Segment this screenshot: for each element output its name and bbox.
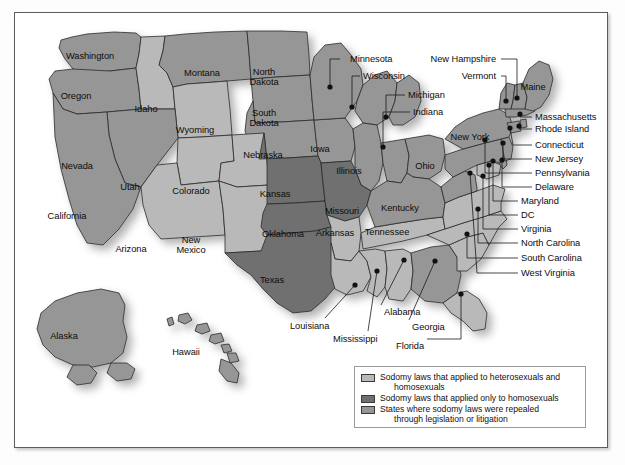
leader-dot-west-virginia: [467, 170, 472, 175]
state-label-texas: Texas: [260, 275, 284, 285]
state-alaska: [67, 365, 97, 385]
legend-text-line-1: States where sodomy laws were repealed: [380, 404, 539, 414]
leader-dot-wisconsin: [349, 104, 354, 109]
state-label-wyoming: Wyoming: [176, 125, 214, 135]
state-callout-label-connecticut: Connecticut: [535, 140, 584, 150]
leader-dot-alabama: [401, 257, 406, 262]
state-label-montana: Montana: [184, 68, 220, 78]
state-callout-label-new-jersey: New Jersey: [535, 154, 583, 164]
legend-text-line-2: through legislation or litigation: [380, 414, 539, 424]
state-callout-label-massachusetts: Massachusetts: [535, 112, 596, 122]
state-label-idaho: Idaho: [134, 104, 157, 114]
state-callout-label-indiana: Indiana: [413, 107, 443, 117]
legend-swatch-both: [361, 374, 375, 382]
state-label-south-dakota: SouthDakota: [249, 109, 278, 128]
state-montana: [159, 31, 251, 87]
state-label-new-york: New York: [451, 132, 490, 142]
legend-swatch-repealed: [361, 406, 375, 414]
legend-text: States where sodomy laws were repealedth…: [380, 404, 539, 424]
legend-text-line-1: Sodomy laws that applied to heterosexual…: [380, 372, 560, 382]
label-line-2: Dakota: [249, 119, 278, 129]
legend-text-line-2: homosexuals: [380, 382, 560, 392]
state-label-colorado: Colorado: [172, 186, 209, 196]
leader-dot-north-carolina: [475, 206, 480, 211]
state-alaska: [37, 289, 127, 367]
leader-dot-dc: [486, 162, 491, 167]
state-label-nevada: Nevada: [61, 161, 93, 171]
state-hawaii: [221, 344, 232, 353]
leader-dot-rhode-island: [516, 123, 521, 128]
leader-dot-delaware: [499, 157, 504, 162]
state-label-kansas: Kansas: [260, 189, 291, 199]
state-callout-label-louisiana: Louisiana: [290, 321, 329, 331]
state-label-california: California: [48, 211, 87, 221]
legend-item-homosexual-only: Sodomy laws that applied only to homosex…: [361, 393, 579, 403]
label-line-2: Mexico: [176, 246, 205, 256]
state-hawaii: [195, 323, 210, 334]
leader-dot-massachusetts: [517, 111, 522, 116]
leader-dot-new-hampshire: [514, 95, 519, 100]
leader-dot-new-jersey: [500, 140, 505, 145]
leader-dot-virginia: [480, 173, 485, 178]
leader-dot-florida: [458, 291, 463, 296]
state-georgia: [411, 245, 461, 303]
state-label-missouri: Missouri: [325, 206, 359, 216]
state-callout-label-pennsylvania: Pennsylvania: [535, 168, 590, 178]
state-label-alaska: Alaska: [50, 331, 78, 341]
state-callout-label-virginia: Virginia: [521, 224, 551, 234]
leader-dot-michigan: [383, 114, 388, 119]
map-legend: Sodomy laws that applied to heterosexual…: [354, 366, 586, 428]
state-callout-label-west-virginia: West Virginia: [521, 268, 575, 278]
state-label-arkansas: Arkansas: [316, 228, 354, 238]
state-label-nebraska: Nebraska: [243, 150, 282, 160]
state-callout-label-delaware: Delaware: [535, 182, 574, 192]
legend-text: Sodomy laws that applied to heterosexual…: [380, 372, 560, 392]
state-hawaii: [209, 333, 224, 344]
state-label-maine: Maine: [520, 82, 545, 92]
state-label-illinois: Illinois: [336, 166, 361, 176]
state-callout-label-rhode-island: Rhode Island: [535, 124, 589, 134]
state-callout-label-alabama: Alabama: [384, 307, 420, 317]
state-label-kentucky: Kentucky: [381, 203, 419, 213]
state-callout-label-minnesota: Minnesota: [350, 54, 392, 64]
leader-dot-maryland: [490, 158, 495, 163]
state-label-hawaii: Hawaii: [172, 347, 200, 357]
state-callout-label-south-carolina: South Carolina: [521, 253, 582, 263]
state-alaska: [107, 363, 135, 381]
state-callout-label-north-carolina: North Carolina: [521, 238, 580, 248]
state-callout-label-maryland: Maryland: [521, 196, 559, 206]
label-line-2: Dakota: [249, 78, 278, 88]
state-callout-label-new-hampshire: New Hampshire: [431, 54, 496, 64]
state-label-arizona: Arizona: [115, 244, 146, 254]
legend-item-repealed: States where sodomy laws were repealedth…: [361, 404, 579, 424]
state-hawaii: [167, 317, 174, 326]
state-callout-label-dc: DC: [521, 210, 534, 220]
map-stage: WashingtonOregonIdahoMontanaWyomingNorth…: [15, 13, 607, 447]
state-label-ohio: Ohio: [415, 161, 434, 171]
state-iowa: [314, 118, 355, 163]
state-label-tennessee: Tennessee: [365, 227, 410, 237]
state-callout-label-michigan: Michigan: [408, 90, 445, 100]
state-ohio: [405, 135, 445, 179]
leader-dot-georgia: [432, 258, 437, 263]
state-hawaii: [178, 313, 192, 324]
state-label-utah: Utah: [120, 182, 139, 192]
state-label-oregon: Oregon: [61, 91, 92, 101]
state-label-north-dakota: NorthDakota: [249, 68, 278, 87]
figure-root: WashingtonOregonIdahoMontanaWyomingNorth…: [0, 0, 625, 465]
map-frame: WashingtonOregonIdahoMontanaWyomingNorth…: [14, 12, 608, 448]
leader-dot-south-carolina: [464, 231, 469, 236]
state-callout-label-georgia: Georgia: [412, 322, 445, 332]
state-callout-label-vermont: Vermont: [462, 71, 496, 81]
legend-text-line-1: Sodomy laws that applied only to homosex…: [380, 393, 559, 403]
state-alabama: [385, 249, 413, 301]
leader-dot-connecticut: [507, 125, 512, 130]
leader-dot-louisiana: [352, 282, 357, 287]
legend-text: Sodomy laws that applied only to homosex…: [380, 393, 559, 403]
legend-item-both: Sodomy laws that applied to heterosexual…: [361, 372, 579, 392]
leader-dot-indiana: [380, 144, 385, 149]
state-label-iowa: Iowa: [310, 144, 329, 154]
leader-dot-vermont: [503, 98, 508, 103]
state-callout-label-wisconsin: Wisconsin: [363, 71, 405, 81]
state-label-washington: Washington: [66, 51, 114, 61]
